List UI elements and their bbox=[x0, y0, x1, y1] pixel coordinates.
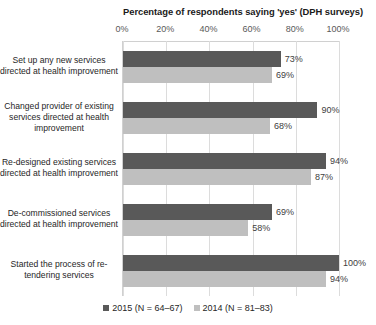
legend-label: 2014 (N = 81–83) bbox=[203, 303, 273, 313]
legend-swatch-icon bbox=[103, 305, 109, 311]
bar-row: 68% bbox=[123, 118, 339, 134]
bar-row: 90% bbox=[123, 102, 339, 118]
bar[interactable] bbox=[123, 67, 272, 83]
bar-row: 69% bbox=[123, 67, 339, 83]
bar-row: 100% bbox=[123, 255, 339, 271]
bar-group: 69%58% bbox=[123, 194, 339, 245]
bar-row: 73% bbox=[123, 51, 339, 67]
bar-value-label: 90% bbox=[317, 105, 339, 115]
y-axis-category-labels: Set up any new services directed at heal… bbox=[0, 41, 118, 296]
bar-value-label: 73% bbox=[281, 54, 303, 64]
bar-chart: Percentage of respondents saying 'yes' (… bbox=[0, 0, 376, 325]
x-axis-tick-40: 40% bbox=[199, 24, 217, 34]
bar-value-label: 94% bbox=[326, 156, 348, 166]
x-axis-tick-80: 80% bbox=[286, 24, 304, 34]
bar-row: 94% bbox=[123, 153, 339, 169]
bar-group: 73%69% bbox=[123, 41, 339, 92]
bar[interactable] bbox=[123, 220, 248, 236]
bar-groups: 73%69%90%68%94%87%69%58%100%94% bbox=[123, 41, 339, 296]
bar[interactable] bbox=[123, 102, 317, 118]
bar-value-label: 94% bbox=[326, 274, 348, 284]
x-axis-tick-0: 0% bbox=[115, 24, 128, 34]
bar-group: 94%87% bbox=[123, 143, 339, 194]
category-label: Changed provider of existing services di… bbox=[0, 101, 118, 135]
bar-group: 90%68% bbox=[123, 92, 339, 143]
legend-item[interactable]: 2015 (N = 64–67) bbox=[103, 303, 182, 313]
bar[interactable] bbox=[123, 169, 311, 185]
bar-value-label: 68% bbox=[270, 121, 292, 131]
bar-value-label: 58% bbox=[248, 223, 270, 233]
bar-row: 94% bbox=[123, 271, 339, 287]
legend-label: 2015 (N = 64–67) bbox=[112, 303, 182, 313]
bar-row: 58% bbox=[123, 220, 339, 236]
bar-value-label: 69% bbox=[272, 207, 294, 217]
bar[interactable] bbox=[123, 51, 281, 67]
bar[interactable] bbox=[123, 271, 326, 287]
bar-row: 69% bbox=[123, 204, 339, 220]
category-label: De-commissioned services directed at hea… bbox=[0, 208, 118, 231]
x-axis-tick-20: 20% bbox=[156, 24, 174, 34]
x-axis-tick-labels: 0%20%40%60%80%100% bbox=[122, 24, 338, 37]
bar[interactable] bbox=[123, 153, 326, 169]
chart-title: Percentage of respondents saying 'yes' (… bbox=[112, 6, 374, 17]
bar-value-label: 87% bbox=[311, 172, 333, 182]
bar-row: 87% bbox=[123, 169, 339, 185]
bar[interactable] bbox=[123, 204, 272, 220]
bar-value-label: 69% bbox=[272, 70, 294, 80]
bar-group: 100%94% bbox=[123, 245, 339, 296]
x-axis-tick-60: 60% bbox=[243, 24, 261, 34]
category-label: Set up any new services directed at heal… bbox=[0, 55, 118, 78]
chart-legend: 2015 (N = 64–67)2014 (N = 81–83) bbox=[0, 303, 376, 313]
legend-swatch-icon bbox=[194, 305, 200, 311]
bar[interactable] bbox=[123, 118, 270, 134]
bar[interactable] bbox=[123, 255, 339, 271]
plot-area: 73%69%90%68%94%87%69%58%100%94% bbox=[122, 41, 339, 296]
category-label: Started the process of re-tendering serv… bbox=[0, 259, 118, 282]
bar-value-label: 100% bbox=[339, 258, 366, 268]
x-axis-tick-100: 100% bbox=[326, 24, 349, 34]
legend-item[interactable]: 2014 (N = 81–83) bbox=[194, 303, 273, 313]
category-label: Re-designed existing services directed a… bbox=[0, 157, 118, 180]
